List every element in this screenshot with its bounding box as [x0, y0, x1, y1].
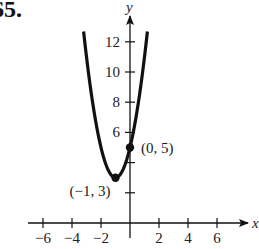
y-axis-label: y [124, 0, 133, 15]
point-label: (−1, 3) [70, 183, 111, 200]
point-label: (0, 5) [141, 140, 174, 157]
x-tick-label: 4 [184, 230, 192, 246]
x-tick-label: 2 [155, 230, 163, 246]
y-tick-label: 6 [113, 124, 121, 140]
parabola-chart: −6−4−2246681012 (−1, 3)(0, 5) x y [0, 0, 259, 249]
x-tick-label: 6 [213, 230, 221, 246]
point-marker [126, 143, 134, 151]
axis-ticks: −6−4−2246681012 [35, 34, 221, 246]
x-tick-label: −6 [35, 230, 51, 246]
x-tick-label: −4 [64, 230, 80, 246]
x-tick-label: −2 [93, 230, 109, 246]
y-tick-label: 12 [105, 34, 120, 50]
y-tick-label: 8 [113, 94, 121, 110]
point-marker [111, 174, 119, 182]
y-tick-label: 10 [105, 64, 120, 80]
x-axis-label: x [251, 215, 259, 231]
axes [28, 16, 248, 238]
